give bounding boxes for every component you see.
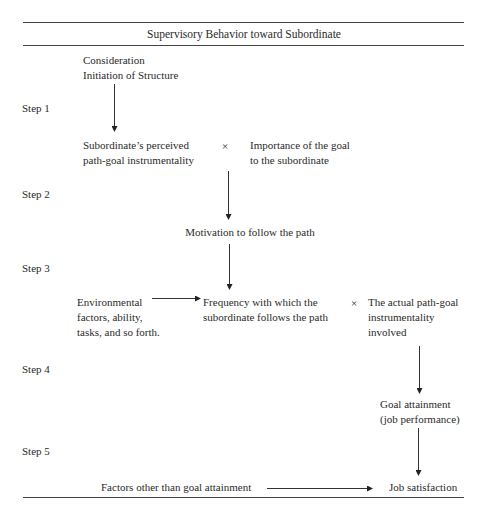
arrows-layer: [0, 0, 488, 513]
